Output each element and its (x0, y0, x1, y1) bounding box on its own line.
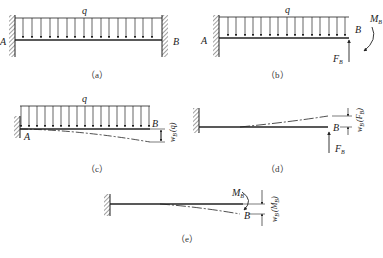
point-label-b: B (244, 210, 250, 221)
load-label-q: q (82, 5, 87, 16)
distributed-load-arrows (228, 17, 345, 36)
point-label-a: A (0, 36, 7, 47)
beam-superposition-diagram: q A B （a） q A B FB (0, 0, 383, 258)
caption-d: （d） (266, 164, 289, 174)
panel-a: q A B （a） (0, 5, 179, 80)
deflected-shape (20, 129, 150, 142)
distributed-load-arrows (23, 18, 152, 38)
panel-e: MB B wB(MB) （e） (104, 187, 280, 244)
force-label: FB (332, 53, 343, 65)
deflection-label: wB(MB) (270, 196, 280, 222)
caption-c: （c） (86, 164, 108, 174)
moment-arrow (364, 27, 374, 51)
caption-e: （e） (176, 234, 198, 244)
point-label-a: A (200, 35, 208, 46)
deflection-label: wB(FB) (355, 108, 365, 132)
deflected-shape (160, 204, 240, 214)
caption-a: （a） (86, 70, 108, 80)
deflected-shape (240, 116, 328, 127)
moment-label: MB (231, 187, 244, 199)
force-label: FB (334, 143, 345, 155)
fixed-support (193, 108, 199, 133)
moment-label: MB (369, 13, 382, 25)
fixed-support-right (162, 15, 168, 57)
panel-c: q A B wB(q) （c） (14, 93, 178, 174)
fixed-support (14, 116, 20, 138)
distributed-load-arrows (21, 106, 149, 127)
panel-d: B FB wB(FB) （d） (193, 108, 365, 174)
point-label-b: B (355, 24, 361, 35)
point-label-b: B (333, 122, 339, 133)
point-label-b: B (152, 118, 158, 129)
point-label-a: A (23, 131, 31, 142)
fixed-support (104, 194, 110, 216)
panel-b: q A B FB MB （b） (200, 4, 382, 80)
load-label-q: q (285, 4, 290, 15)
deflection-label: wB(q) (168, 122, 178, 142)
load-label-q: q (82, 93, 87, 104)
point-label-b: B (173, 36, 179, 47)
caption-b: （b） (266, 70, 289, 80)
fixed-support-left (9, 15, 15, 57)
fixed-support (213, 15, 219, 57)
